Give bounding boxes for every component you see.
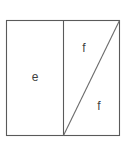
geometry-figure-canvas: e f f [0,0,126,143]
geometry-figure-svg: e f f [0,0,126,143]
label-e: e [32,70,39,84]
